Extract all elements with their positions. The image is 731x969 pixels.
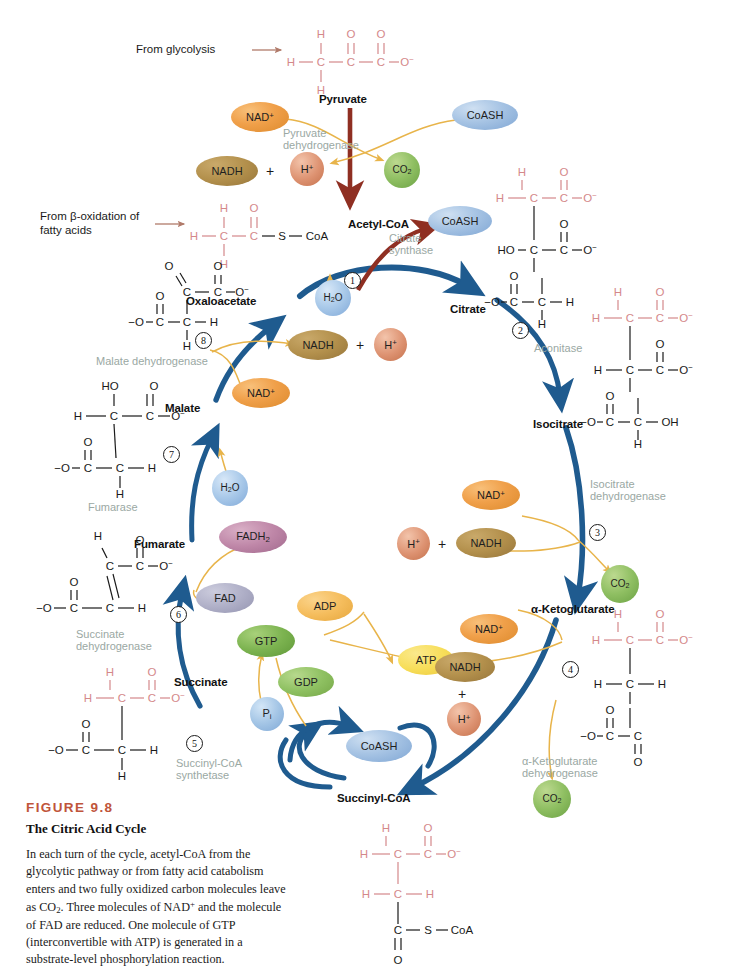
svg-text:C: C xyxy=(70,602,78,614)
co2-label-4: CO xyxy=(543,793,558,804)
svg-text:O−: O− xyxy=(583,243,597,256)
step-number-6: 6 xyxy=(170,606,187,623)
nadh-label-8: NADH xyxy=(302,339,333,351)
idh-line2: dehydrogenase xyxy=(590,490,666,502)
svg-text:C: C xyxy=(634,730,642,742)
metabolite-label-oxaloacetate: Oxaloacetate xyxy=(186,295,256,307)
plus-sign-step3: + xyxy=(438,536,446,553)
step-number-8: 8 xyxy=(195,332,212,349)
cofactor-bubble-h2o-fumarase: H2O xyxy=(212,470,248,506)
nadh-label: NADH xyxy=(211,165,242,177)
svg-text:C: C xyxy=(116,462,124,474)
structure-alpha-ketoglutarate: H HCC O O− HCH −OCC OO xyxy=(584,604,714,754)
svg-text:C: C xyxy=(606,416,614,428)
enzyme-label-fumarase: Fumarase xyxy=(88,501,138,513)
svg-text:O: O xyxy=(656,608,665,620)
svg-text:H: H xyxy=(84,692,92,704)
pdh-line2: dehydrogenase xyxy=(283,139,359,151)
h2o-o-7: O xyxy=(232,482,240,493)
fad-label: FAD xyxy=(214,592,235,604)
svg-text:C: C xyxy=(220,230,228,242)
svg-text:C: C xyxy=(110,410,118,422)
svg-text:C: C xyxy=(530,192,538,204)
svg-text:H: H xyxy=(658,678,666,690)
svg-text:O: O xyxy=(377,28,386,40)
svg-text:OH: OH xyxy=(661,416,678,428)
svg-text:H: H xyxy=(496,192,504,204)
cofactor-bubble-nadh-step8: NADH xyxy=(288,330,348,360)
svg-text:O: O xyxy=(165,260,174,272)
coash-label: CoASH xyxy=(467,109,504,121)
svg-text:C: C xyxy=(626,364,634,376)
cofactor-bubble-nad-plus-step8: NAD+ xyxy=(232,378,290,408)
cofactor-bubble-pi: Pi xyxy=(250,697,284,731)
metabolite-label-malate: Malate xyxy=(165,402,200,414)
cofactor-bubble-co2-pdh: CO2 xyxy=(384,152,420,188)
svg-text:H: H xyxy=(94,530,102,542)
enzyme-label-pyruvate-dehydrogenase: Pyruvate dehydrogenase xyxy=(283,127,359,152)
svg-text:O: O xyxy=(606,390,615,402)
svg-text:O−: O− xyxy=(679,363,693,376)
metabolite-label-citrate: Citrate xyxy=(450,303,486,315)
kgdh-line1: α-Ketoglutarate xyxy=(522,755,597,767)
svg-text:O: O xyxy=(214,260,223,272)
svg-text:O: O xyxy=(634,756,643,768)
svg-text:−O: −O xyxy=(580,730,596,742)
svg-text:H: H xyxy=(594,678,602,690)
svg-text:H: H xyxy=(426,888,434,900)
enzyme-label-citrate-synthase: Citrate synthase xyxy=(389,232,433,257)
nadh-label-4: NADH xyxy=(449,661,480,673)
co2-label-3: CO xyxy=(611,578,626,589)
plus-sign-step8: + xyxy=(356,337,364,354)
gdp-label: GDP xyxy=(294,676,318,688)
coash-label-cs: CoASH xyxy=(442,215,479,227)
nad-charge-3: + xyxy=(500,489,505,498)
svg-text:C: C xyxy=(82,744,90,756)
svg-text:O−: O− xyxy=(679,633,693,646)
structure-isocitrate: H HCC O O− HCC O O− −OCCOH OH xyxy=(584,282,714,442)
svg-text:−O: −O xyxy=(128,316,144,328)
svg-text:H: H xyxy=(362,888,370,900)
svg-text:C: C xyxy=(634,416,642,428)
svg-text:O: O xyxy=(148,666,157,678)
nad-charge: + xyxy=(269,111,274,120)
svg-text:H: H xyxy=(74,410,82,422)
step-number-7: 7 xyxy=(163,446,180,463)
cofactor-bubble-gtp: GTP xyxy=(237,625,295,657)
svg-text:H: H xyxy=(360,848,368,860)
svg-text:C: C xyxy=(656,312,664,324)
h2o-h-7: H xyxy=(220,482,227,493)
coash-label-succ: CoASH xyxy=(361,740,398,752)
cofactor-bubble-nad-plus-step4: NAD+ xyxy=(460,614,518,644)
svg-text:O−: O− xyxy=(679,311,693,324)
cofactor-bubble-h-plus-step3: H+ xyxy=(397,527,430,560)
pi-sub: i xyxy=(270,712,272,721)
svg-text:C: C xyxy=(538,296,546,308)
metabolite-label-acetyl-coa: Acetyl-CoA xyxy=(348,218,409,230)
cs-line2: synthase xyxy=(389,244,433,256)
metabolite-label-fumarate: Fumarate xyxy=(134,538,185,550)
co2-label: CO xyxy=(393,164,408,175)
svg-text:O: O xyxy=(656,286,665,298)
svg-text:C: C xyxy=(106,602,114,614)
svg-text:S: S xyxy=(278,230,286,242)
svg-text:C: C xyxy=(317,56,325,68)
co2-sub: 2 xyxy=(408,167,412,176)
cofactor-bubble-nadh-step4: NADH xyxy=(435,652,495,682)
metabolite-label-pyruvate: Pyruvate xyxy=(319,93,367,105)
sdh-line1: Succinate xyxy=(76,628,124,640)
h-charge-3: + xyxy=(415,537,420,546)
svg-text:C: C xyxy=(106,560,114,572)
h-charge-8: + xyxy=(392,338,397,347)
svg-text:C: C xyxy=(84,462,92,474)
step-number-2: 2 xyxy=(512,322,529,339)
h-label-8: H xyxy=(384,339,392,351)
svg-text:H: H xyxy=(148,462,156,474)
cofactor-bubble-h-plus-step4: H+ xyxy=(447,702,481,736)
from-beta-oxidation-label: From β-oxidation of fatty acids xyxy=(40,210,139,238)
enzyme-label-alpha-ketoglutarate-dehydrogenase: α-Ketoglutarate dehydrogenase xyxy=(522,755,598,780)
svg-text:C: C xyxy=(394,888,402,900)
plus-sign-pdh: + xyxy=(266,163,274,180)
enzyme-label-succinyl-coa-synthetase: Succinyl-CoA synthetase xyxy=(176,757,242,782)
